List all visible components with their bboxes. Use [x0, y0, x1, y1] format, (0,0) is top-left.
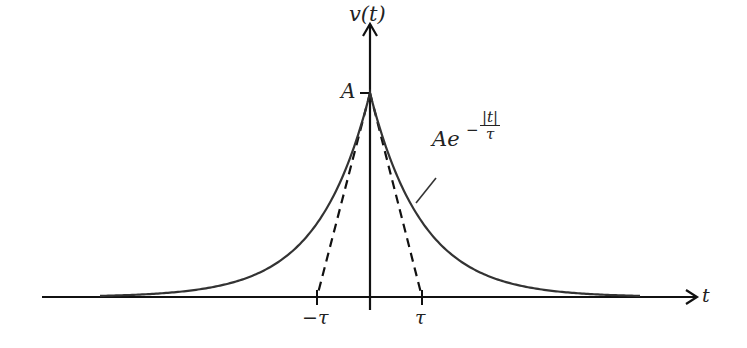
- x-axis-label: t: [702, 284, 710, 306]
- curve-formula: Ae − |t| τ: [432, 127, 460, 151]
- tick-label-pos-tau: τ: [415, 306, 426, 328]
- exponential-pulse-diagram: [0, 0, 747, 348]
- formula-leader-line: [416, 178, 436, 203]
- tick-label-neg-tau: −τ: [302, 306, 328, 328]
- formula-base: Ae: [432, 127, 460, 151]
- formula-exponent: − |t| τ: [466, 115, 526, 155]
- formula-fraction: |t| τ: [480, 109, 500, 142]
- y-axis-label: v(t): [349, 2, 386, 26]
- peak-label: A: [341, 79, 355, 103]
- formula-denominator: τ: [480, 126, 500, 142]
- formula-numerator: |t|: [480, 109, 500, 126]
- formula-exponent-sign: −: [466, 121, 479, 139]
